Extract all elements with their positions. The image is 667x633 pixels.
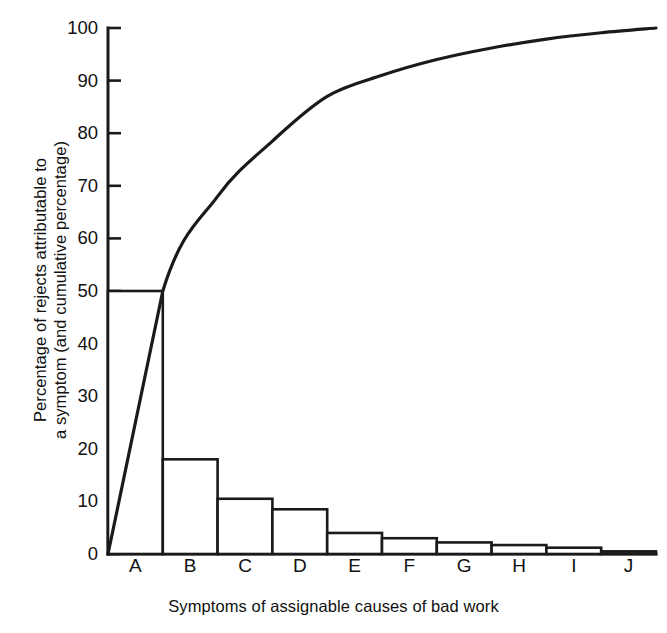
bar	[437, 542, 492, 554]
bar	[163, 459, 218, 554]
bar	[327, 533, 382, 554]
bar-series	[108, 291, 656, 554]
bar	[382, 538, 437, 554]
bar	[601, 551, 656, 554]
bar	[546, 548, 601, 554]
bar	[272, 509, 327, 554]
bar	[492, 545, 547, 554]
chart-plot-area	[0, 0, 667, 633]
pareto-chart-figure: Percentage of rejects attributable to a …	[0, 0, 667, 633]
bar	[218, 499, 273, 554]
